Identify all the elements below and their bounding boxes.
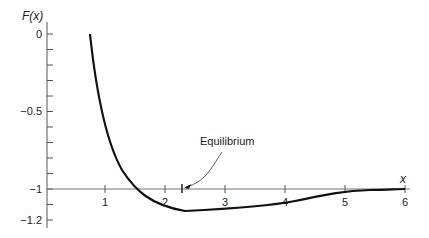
curve-line	[90, 34, 405, 211]
y-ticks	[47, 34, 53, 220]
x-tick-label: 1	[102, 196, 108, 208]
x-tick-label: 6	[402, 196, 408, 208]
y-tick-label: −1.2	[20, 214, 42, 226]
equilibrium-arrow	[186, 152, 222, 187]
x-tick-label: 5	[342, 196, 348, 208]
y-axis-title: F(x)	[22, 9, 43, 23]
y-tick-label: −0.5	[20, 105, 42, 117]
x-tick-label: 3	[222, 196, 228, 208]
chart: F(x) x 0 −0.5 −1 −1.2 1 2 3 4 5 6 Equili…	[0, 0, 429, 238]
arrowhead-icon	[184, 184, 191, 189]
y-tick-label: 0	[36, 28, 42, 40]
y-tick-label: −1	[29, 183, 42, 195]
equilibrium-label: Equilibrium	[200, 135, 254, 147]
x-axis-title: x	[399, 172, 407, 186]
